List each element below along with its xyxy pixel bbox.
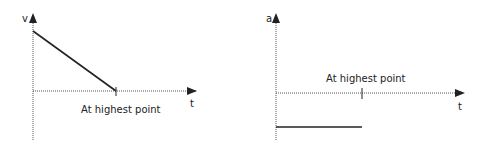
highest-point-label: At highest point: [326, 73, 406, 84]
projectile-graphs: v t At highest point a t At highest poin…: [0, 0, 484, 149]
t-axis-label: t: [190, 98, 194, 109]
acceleration-time-graph: a t At highest point: [266, 13, 464, 140]
a-axis-label: a: [266, 13, 272, 24]
v-axis-label: v: [22, 13, 28, 24]
velocity-time-graph: v t At highest point: [22, 13, 196, 140]
highest-point-label: At highest point: [81, 104, 161, 115]
t-axis-label: t: [458, 101, 462, 112]
velocity-line: [33, 31, 116, 91]
